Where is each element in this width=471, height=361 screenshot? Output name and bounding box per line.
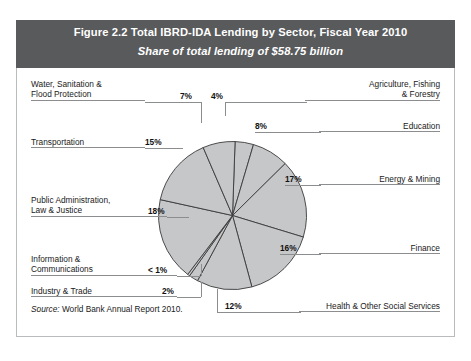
pie-slice <box>188 216 233 276</box>
pct-finance: 16% <box>280 243 297 253</box>
leader-health-h <box>217 312 301 313</box>
source-label: Source: <box>31 304 60 314</box>
leader-publicadmin-h <box>167 217 189 218</box>
callout-agriculture-fishing-forestry: Agriculture, Fishing & Forestry <box>305 79 440 101</box>
pie-slice <box>190 216 233 281</box>
leader-health-v <box>217 289 218 312</box>
pct-agriculture: 4% <box>211 91 223 101</box>
pie-slice <box>233 142 254 216</box>
leader-transportation-h <box>145 148 183 149</box>
leader-finance-h <box>280 254 321 255</box>
pct-public-administration: 18% <box>148 206 165 216</box>
callout-transportation: Transportation <box>31 137 145 148</box>
callout-publicadmin-line1: Public Administration, <box>31 195 167 205</box>
callout-water-line1: Water, Sanitation & <box>31 79 145 89</box>
pct-health: 12% <box>225 301 242 311</box>
leader-education-h <box>255 132 321 133</box>
figure-title: Figure 2.2 Total IBRD-IDA Lending by Sec… <box>16 26 455 38</box>
figure-header-band: Figure 2.2 Total IBRD-IDA Lending by Sec… <box>16 20 455 68</box>
callout-publicadmin-line2: Law & Justice <box>31 205 167 215</box>
callout-agriculture-line2: & Forestry <box>305 89 440 99</box>
callout-infocomm-line1: Information & <box>31 254 177 264</box>
callout-water-line2: Flood Protection <box>31 89 145 99</box>
callout-industry-trade: Industry & Trade <box>31 286 177 297</box>
leader-infocomm-v <box>201 264 202 276</box>
source-text: World Bank Annual Report 2010. <box>60 304 183 314</box>
leader-industry-h <box>177 297 201 298</box>
callout-education-line1: Education <box>319 121 440 131</box>
leader-energy-h <box>285 185 321 186</box>
callout-transportation-line1: Transportation <box>31 137 145 147</box>
pct-energy-mining: 17% <box>285 174 302 184</box>
pie-slice <box>160 148 232 216</box>
source-note: Source: World Bank Annual Report 2010. <box>31 304 183 314</box>
pct-education: 8% <box>255 121 267 131</box>
callout-health-line1: Health & Other Social Services <box>299 301 440 311</box>
callout-industry-line1: Industry & Trade <box>31 286 177 296</box>
callout-education: Education <box>319 121 440 132</box>
chart-plot-area: Water, Sanitation & Flood Protection 7% … <box>16 68 455 337</box>
leader-agriculture-h <box>225 102 307 103</box>
callout-finance-line1: Finance <box>319 243 440 253</box>
leader-water-v <box>201 102 202 123</box>
leader-water-h <box>145 102 201 103</box>
callout-energy-line1: Energy & Mining <box>319 174 440 184</box>
pie-slice <box>198 216 252 290</box>
pie-slice <box>203 142 235 216</box>
leader-industry-v <box>201 282 202 297</box>
pct-water: 7% <box>180 91 192 101</box>
pie-slice <box>233 145 286 216</box>
callout-water-sanitation: Water, Sanitation & Flood Protection <box>31 79 145 101</box>
pie-slice-group <box>159 142 307 290</box>
callout-agriculture-line1: Agriculture, Fishing <box>305 79 440 89</box>
figure-subtitle: Share of total lending of $58.75 billion <box>16 45 455 57</box>
callout-health-other-social-services: Health & Other Social Services <box>299 301 440 312</box>
callout-finance: Finance <box>319 243 440 254</box>
pct-industry-trade: 2% <box>162 286 174 296</box>
callout-public-administration: Public Administration, Law & Justice <box>31 195 167 217</box>
leader-infocomm-h <box>177 276 201 277</box>
figure-container: Figure 2.2 Total IBRD-IDA Lending by Sec… <box>16 20 455 337</box>
leader-agriculture-v <box>225 102 226 116</box>
callout-energy-mining: Energy & Mining <box>319 174 440 185</box>
pct-transportation: 15% <box>145 137 162 147</box>
pct-information-communications: < 1% <box>148 265 167 275</box>
